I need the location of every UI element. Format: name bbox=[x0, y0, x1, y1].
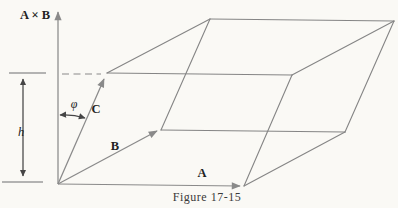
parallelepiped-edges bbox=[107, 19, 394, 186]
parallelepiped-edge bbox=[107, 73, 292, 75]
parallelepiped-edge bbox=[161, 130, 345, 132]
parallelepiped-edge bbox=[292, 21, 394, 75]
axis-a-cross-b-label: A × B bbox=[20, 8, 50, 22]
height-label: h bbox=[18, 125, 24, 139]
parallelepiped-diagram: A × B h φ C B A Figure 17-15 bbox=[0, 0, 398, 208]
vector-c-label: C bbox=[91, 102, 100, 116]
parallelepiped-edge bbox=[345, 21, 394, 132]
vector-a-arrow bbox=[58, 184, 240, 186]
parallelepiped-edge bbox=[244, 132, 345, 186]
vector-b-label: B bbox=[111, 139, 119, 153]
angle-phi-arc-arrow bbox=[60, 115, 85, 118]
vector-a-label: A bbox=[197, 166, 206, 180]
figure-caption: Figure 17-15 bbox=[173, 190, 241, 204]
vector-b-arrow bbox=[58, 131, 157, 184]
figure-17-15: A × B h φ C B A Figure 17-15 bbox=[0, 0, 398, 208]
vector-c-arrow bbox=[58, 79, 104, 184]
angle-phi-label: φ bbox=[71, 97, 78, 111]
parallelepiped-edge bbox=[210, 19, 394, 21]
parallelepiped-edge bbox=[107, 19, 210, 73]
